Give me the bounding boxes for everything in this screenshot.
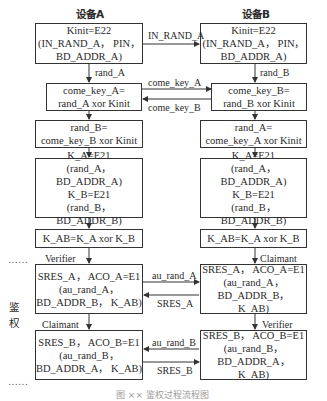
- text-line: (au_rand_B，: [59, 349, 119, 362]
- auth-side-label: 鉴 权: [9, 299, 21, 331]
- device-a-header: 设备A: [76, 6, 104, 21]
- ellipsis-bottom: ……: [8, 376, 28, 387]
- text-line: (au_rand_A，: [223, 276, 283, 289]
- device-b-auth1-box: SRES_A， ACO_A=E1 (au_rand_A， BD_ADDR_B， …: [200, 264, 307, 314]
- text-line: rand_A xor Kinit: [58, 97, 130, 110]
- device-a-auth1-box: SRES_A， ACO_A=E1 (au_rand_A， BD_ADDR_B， …: [35, 264, 143, 314]
- text-line: BD_ADDR_A， K_AB): [201, 355, 306, 381]
- side-char: 鉴: [9, 299, 21, 315]
- text-line: K_B=E21: [68, 188, 111, 201]
- role-a-claimant: Claimant: [42, 319, 79, 330]
- device-a-kab-box: K_AB=K_A xor K_B: [35, 229, 143, 248]
- text-line: BD_ADDR_A， K_AB): [36, 362, 142, 375]
- figure-caption: 图 ×× 鉴权过程流程图: [116, 388, 209, 401]
- text-line: come_key_A xor Kinit: [205, 134, 301, 147]
- device-b-header: 设备B: [242, 6, 270, 21]
- text-line: BD_ADDR_A): [221, 50, 287, 63]
- text-line: come_key_A=: [63, 84, 125, 97]
- text-line: come_key_B=: [228, 84, 289, 97]
- device-b-come-key-box: come_key_B= rand_B xor Kinit: [211, 83, 307, 111]
- msg-sres-a: SRES_A: [157, 298, 193, 309]
- msg-come-key-a: come_key_A: [148, 77, 201, 88]
- text-line: (rand_A， BD_ADDR_A): [201, 162, 306, 188]
- text-line: rand_B xor Kinit: [223, 97, 295, 110]
- device-a-rand-recv-box: rand_B= come_key_B xor Kinit: [35, 120, 143, 148]
- text-line: BD_ADDR_B， K_AB): [201, 289, 306, 315]
- text-line: rand_B=: [71, 121, 108, 134]
- msg-sres-b: SRES_B: [157, 365, 193, 376]
- text-line: SRES_B， ACO_B=E1: [38, 336, 139, 349]
- side-char: 权: [9, 315, 21, 331]
- text-line: (rand_B， BD_ADDR_B): [36, 201, 142, 227]
- device-b-kinit-box: Kinit=E22 (IN_RAND_A， PIN， BD_ADDR_A): [200, 23, 307, 64]
- text-line: SRES_B， ACO_B=E1: [203, 329, 304, 342]
- text-line: (rand_A， BD_ADDR_A): [36, 162, 142, 188]
- text-line: (IN_RAND_A， PIN，: [38, 37, 140, 50]
- text-line: K_A=E21: [232, 149, 275, 162]
- text-line: SRES_A， ACO_A=E1: [38, 270, 141, 283]
- text-line: K_B=E21: [232, 188, 275, 201]
- text-line: (au_rand_A，: [59, 283, 119, 296]
- device-a-link-keys-box: K_A=E21 (rand_A， BD_ADDR_A) K_B=E21 (ran…: [35, 158, 143, 218]
- text-line: (IN_RAND_A， PIN，: [203, 37, 305, 50]
- msg-in-rand-a: IN_RAND_A: [148, 30, 204, 41]
- text-line: Kinit=E22: [231, 24, 275, 37]
- msg-au-rand-b: au_rand_B: [152, 337, 196, 348]
- text-line: (au_rand_B，: [224, 342, 284, 355]
- label-rand-a: rand_A: [95, 67, 125, 78]
- ellipsis-top: ……: [8, 254, 28, 265]
- text-line: BD_ADDR_A): [56, 50, 122, 63]
- device-b-rand-recv-box: rand_A= come_key_A xor Kinit: [200, 120, 307, 148]
- text-line: rand_A=: [235, 121, 272, 134]
- text-line: (rand_B， BD_ADDR_B): [201, 201, 306, 227]
- text-line: SRES_A， ACO_A=E1: [202, 263, 305, 276]
- device-a-come-key-box: come_key_A= rand_A xor Kinit: [46, 83, 142, 111]
- device-b-auth2-box: SRES_B， ACO_B=E1 (au_rand_B， BD_ADDR_A， …: [200, 330, 307, 380]
- device-a-kinit-box: Kinit=E22 (IN_RAND_A， PIN， BD_ADDR_A): [35, 23, 143, 64]
- text-line: K_A=E21: [67, 149, 110, 162]
- label-rand-b: rand_B: [260, 67, 289, 78]
- text-line: Kinit=E22: [67, 24, 111, 37]
- text-line: come_key_B xor Kinit: [41, 134, 137, 147]
- role-a-verifier: Verifier: [45, 253, 76, 264]
- msg-au-rand-a: au_rand_A: [152, 270, 196, 281]
- device-a-auth2-box: SRES_B， ACO_B=E1 (au_rand_B， BD_ADDR_A， …: [35, 330, 143, 380]
- text-line: BD_ADDR_B， K_AB): [36, 296, 141, 309]
- msg-come-key-b: come_key_B: [148, 102, 201, 113]
- device-b-kab-box: K_AB=K_A xor K_B: [200, 229, 307, 248]
- device-b-link-keys-box: K_A=E21 (rand_A， BD_ADDR_A) K_B=E21 (ran…: [200, 158, 307, 218]
